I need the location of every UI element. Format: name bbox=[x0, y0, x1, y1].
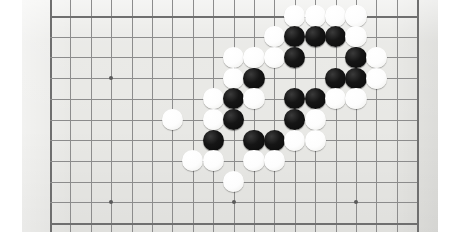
white-stone[interactable] bbox=[203, 109, 224, 130]
white-stone[interactable] bbox=[264, 47, 285, 68]
white-stone[interactable] bbox=[203, 150, 224, 171]
black-stone[interactable] bbox=[325, 26, 346, 47]
black-stone[interactable] bbox=[345, 68, 366, 89]
black-stone[interactable] bbox=[223, 109, 244, 130]
white-stone[interactable] bbox=[223, 47, 244, 68]
white-stone[interactable] bbox=[366, 47, 387, 68]
black-stone[interactable] bbox=[243, 68, 264, 89]
stone-layer[interactable] bbox=[22, 0, 438, 232]
white-stone[interactable] bbox=[345, 88, 366, 109]
black-stone[interactable] bbox=[243, 130, 264, 151]
white-stone[interactable] bbox=[366, 68, 387, 89]
black-stone[interactable] bbox=[284, 109, 305, 130]
go-board[interactable] bbox=[22, 0, 438, 232]
white-stone[interactable] bbox=[264, 150, 285, 171]
page-margin-bottom bbox=[0, 232, 460, 244]
black-stone[interactable] bbox=[264, 130, 285, 151]
black-stone[interactable] bbox=[325, 68, 346, 89]
white-stone[interactable] bbox=[345, 5, 366, 26]
white-stone[interactable] bbox=[264, 26, 285, 47]
black-stone[interactable] bbox=[284, 47, 305, 68]
white-stone[interactable] bbox=[162, 109, 183, 130]
go-board-photograph bbox=[0, 0, 460, 244]
white-stone[interactable] bbox=[325, 5, 346, 26]
white-stone[interactable] bbox=[284, 130, 305, 151]
black-stone[interactable] bbox=[223, 88, 244, 109]
page-margin-right bbox=[438, 0, 460, 244]
white-stone[interactable] bbox=[223, 171, 244, 192]
black-stone[interactable] bbox=[284, 88, 305, 109]
black-stone[interactable] bbox=[284, 26, 305, 47]
white-stone[interactable] bbox=[325, 88, 346, 109]
page-margin-left bbox=[0, 0, 22, 244]
white-stone[interactable] bbox=[345, 26, 366, 47]
white-stone[interactable] bbox=[223, 68, 244, 89]
white-stone[interactable] bbox=[243, 88, 264, 109]
white-stone[interactable] bbox=[305, 130, 326, 151]
black-stone[interactable] bbox=[203, 130, 224, 151]
white-stone[interactable] bbox=[203, 88, 224, 109]
white-stone[interactable] bbox=[182, 150, 203, 171]
white-stone[interactable] bbox=[243, 47, 264, 68]
black-stone[interactable] bbox=[345, 47, 366, 68]
white-stone[interactable] bbox=[284, 5, 305, 26]
white-stone[interactable] bbox=[305, 5, 326, 26]
white-stone[interactable] bbox=[243, 150, 264, 171]
white-stone[interactable] bbox=[305, 109, 326, 130]
black-stone[interactable] bbox=[305, 88, 326, 109]
black-stone[interactable] bbox=[305, 26, 326, 47]
